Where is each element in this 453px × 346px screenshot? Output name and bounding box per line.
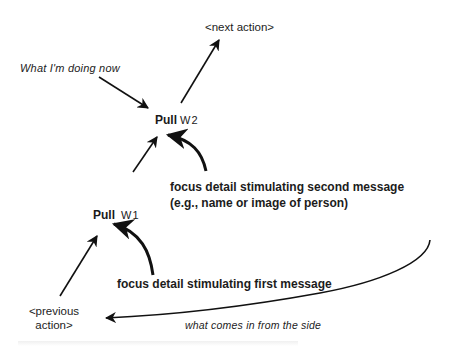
label-previous-action: <previous action> — [26, 306, 82, 331]
truncated-caption — [18, 341, 298, 346]
arrow-previous-to-w1 — [60, 236, 97, 296]
node-pull-w1-sub: W1 — [121, 209, 140, 221]
label-previous-action-line1: <previous — [26, 306, 82, 318]
arrow-focus-first-to-w1 — [114, 224, 153, 275]
node-pull-w1: PullW1 — [93, 209, 140, 221]
arrow-w2-to-next-action — [181, 40, 219, 103]
label-previous-action-line2: action> — [26, 320, 82, 332]
node-pull-w2-sub: W2 — [180, 114, 199, 126]
node-pull-w1-main: Pull — [93, 208, 115, 222]
node-pull-w2-main: Pull — [155, 113, 177, 127]
label-next-action: <next action> — [205, 22, 274, 34]
label-focus-second-line1: focus detail stimulating second message — [170, 181, 404, 193]
arrow-doing-now-to-w2 — [99, 77, 148, 108]
arrow-w1-to-w2 — [133, 137, 157, 172]
label-focus-first: focus detail stimulating first message — [117, 278, 332, 290]
arrows-layer — [0, 0, 453, 346]
label-focus-second-line2: (e.g., name or image of person) — [170, 197, 348, 209]
label-from-side: what comes in from the side — [185, 320, 321, 331]
node-pull-w2: PullW2 — [155, 114, 199, 126]
label-what-doing-now: What I'm doing now — [20, 63, 120, 74]
arrow-focus-second-to-w2 — [168, 135, 206, 171]
